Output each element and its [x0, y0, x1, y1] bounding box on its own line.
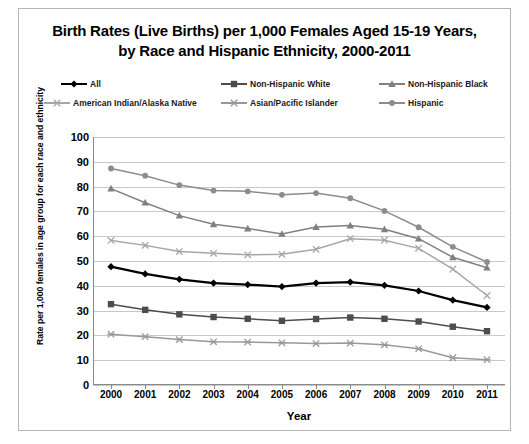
x-tick-label-2011: 2011: [476, 389, 498, 400]
data-point-square: [142, 307, 148, 313]
legend-item-non-hispanic-white[interactable]: Non-Hispanic White: [221, 79, 330, 89]
data-point-diamond: [449, 297, 456, 304]
data-point-asterisk: [483, 357, 491, 363]
legend-item-asian-pacific-islander[interactable]: Asian/Pacific Islander: [221, 98, 338, 108]
data-point-circle: [176, 182, 182, 188]
x-axis-tick-labels: 2000200120022003200420052006200720082009…: [93, 389, 505, 405]
data-point-square: [210, 314, 216, 320]
x-axis-title: Year: [93, 410, 505, 422]
y-tick-label-100: 100: [71, 132, 89, 143]
legend-item-non-hispanic-black[interactable]: Non-Hispanic Black: [379, 79, 488, 89]
data-point-circle: [389, 100, 395, 106]
y-tick-label-20: 20: [77, 330, 89, 341]
data-point-asterisk: [210, 339, 218, 345]
y-tick-label-60: 60: [77, 231, 89, 242]
legend-swatch-circle-icon: [379, 98, 405, 108]
data-point-square: [279, 318, 285, 324]
legend-label: Asian/Pacific Islander: [250, 99, 338, 108]
data-point-square: [245, 316, 251, 322]
y-tick-label-40: 40: [77, 280, 89, 291]
chart-title-line-2: by Race and Hispanic Ethnicity, 2000-201…: [19, 41, 510, 61]
data-point-square: [484, 328, 490, 334]
chart-title-line-1: Birth Rates (Live Births) per 1,000 Fema…: [19, 21, 510, 41]
data-point-asterisk: [312, 340, 320, 346]
data-point-triangle: [388, 80, 395, 87]
legend-swatch-square-icon: [221, 79, 247, 89]
data-point-diamond: [70, 80, 77, 87]
legend-swatch-cross-icon: [44, 98, 70, 108]
x-tick-label-2006: 2006: [305, 389, 327, 400]
page-title: Birth Rates (Live Births) per 1,000 Fema…: [19, 21, 510, 61]
x-tick-label-2002: 2002: [168, 389, 190, 400]
legend-label: American Indian/Alaska Native: [73, 99, 197, 108]
data-point-square: [108, 301, 114, 307]
data-point-asterisk: [415, 346, 423, 352]
data-point-square: [231, 81, 237, 87]
legend-item-american-indian-alaska-native[interactable]: American Indian/Alaska Native: [44, 98, 197, 108]
legend-swatch-diamond-icon: [61, 79, 87, 89]
x-tick-label-2003: 2003: [202, 389, 224, 400]
figure-frame: Birth Rates (Live Births) per 1,000 Fema…: [18, 8, 511, 431]
data-point-diamond: [107, 263, 114, 270]
data-point-asterisk: [176, 336, 184, 342]
data-point-diamond: [278, 283, 285, 290]
x-tick-label-2008: 2008: [373, 389, 395, 400]
data-point-circle: [108, 166, 114, 172]
data-point-circle: [347, 195, 353, 201]
data-point-square: [313, 316, 319, 322]
data-point-asterisk: [230, 100, 238, 106]
y-tick-label-90: 90: [77, 156, 89, 167]
x-tick-label-2009: 2009: [407, 389, 429, 400]
y-tick-label-10: 10: [77, 355, 89, 366]
data-point-circle: [416, 224, 422, 230]
data-point-triangle: [107, 185, 114, 192]
legend-label: Non-Hispanic White: [250, 80, 330, 89]
y-tick-label-0: 0: [83, 380, 89, 391]
data-point-asterisk: [346, 340, 354, 346]
y-tick-label-70: 70: [77, 206, 89, 217]
series-non-hispanic-white: [108, 301, 490, 334]
gridline-0: [93, 385, 505, 386]
y-axis-title: Rate per 1,000 females in age group for …: [35, 97, 45, 345]
x-tick-label-2000: 2000: [100, 389, 122, 400]
x-tick-label-2005: 2005: [271, 389, 293, 400]
x-tick-label-2004: 2004: [237, 389, 259, 400]
data-point-square: [450, 324, 456, 330]
data-point-circle: [382, 208, 388, 214]
x-tick-label-2010: 2010: [442, 389, 464, 400]
y-tick-label-80: 80: [77, 181, 89, 192]
legend-label: Non-Hispanic Black: [408, 80, 488, 89]
legend-label: Hispanic: [408, 99, 443, 108]
data-point-circle: [450, 244, 456, 250]
data-point-triangle: [449, 253, 456, 260]
data-point-circle: [245, 188, 251, 194]
data-point-diamond: [312, 279, 319, 286]
data-point-circle: [142, 173, 148, 179]
series-asian-pacific-islander: [107, 331, 491, 363]
plot-area: [93, 137, 505, 385]
data-point-asterisk: [278, 340, 286, 346]
data-point-circle: [211, 188, 217, 194]
series-all: [107, 263, 490, 311]
legend-item-hispanic[interactable]: Hispanic: [379, 98, 443, 108]
data-point-diamond: [483, 304, 490, 311]
data-point-asterisk: [244, 339, 252, 345]
series-layer: [93, 137, 505, 385]
data-point-square: [176, 311, 182, 317]
data-point-asterisk: [141, 333, 149, 339]
data-point-asterisk: [381, 342, 389, 348]
data-point-cross: [54, 100, 60, 106]
y-tick-label-50: 50: [77, 256, 89, 267]
legend-item-all[interactable]: All: [61, 79, 101, 89]
data-point-circle: [279, 192, 285, 198]
data-point-diamond: [210, 279, 217, 286]
data-point-square: [381, 316, 387, 322]
legend-label: All: [90, 80, 101, 89]
chart-page: Birth Rates (Live Births) per 1,000 Fema…: [0, 0, 529, 444]
footer-clipped-text: [10, 436, 519, 444]
data-point-cross: [484, 292, 490, 298]
series-hispanic: [108, 166, 490, 265]
data-point-diamond: [244, 281, 251, 288]
x-tick-label-2007: 2007: [339, 389, 361, 400]
data-point-diamond: [176, 276, 183, 283]
